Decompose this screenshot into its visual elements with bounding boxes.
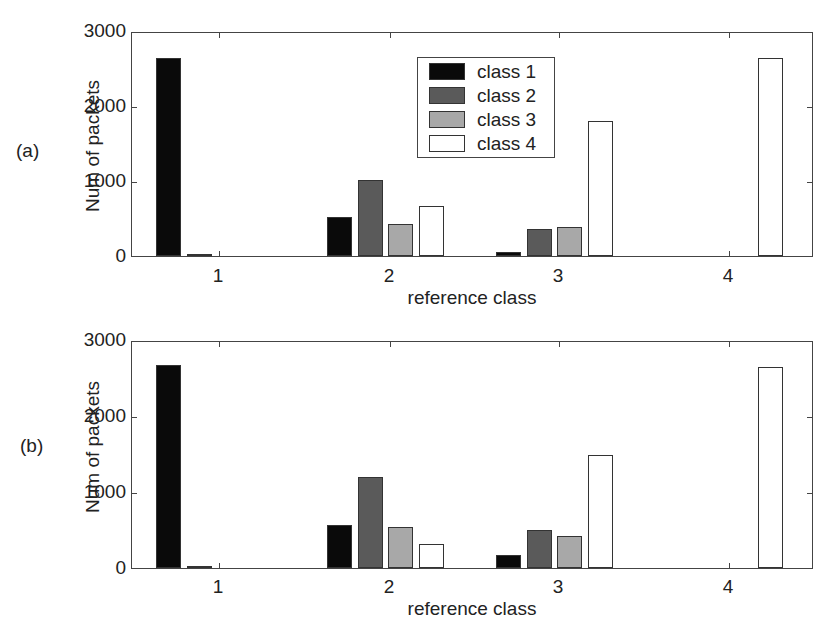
legend: class 1 class 2 class 3 class 4 — [417, 57, 555, 158]
legend-swatch — [429, 111, 465, 128]
bar-class4-ref2 — [419, 544, 444, 568]
bar-class3-ref2 — [388, 224, 413, 256]
legend-swatch — [429, 135, 465, 152]
x-tick-mark — [729, 563, 730, 568]
bar-class1-ref3 — [496, 252, 521, 256]
bar-class2-ref1 — [187, 566, 212, 568]
y-tick-mark — [807, 493, 812, 494]
plot-area — [131, 341, 813, 569]
chart-panel-a: (a) Num of packets 3000 2000 1000 0 1 2 … — [0, 0, 834, 320]
y-tick-mark — [132, 493, 137, 494]
y-tick-label: 0 — [66, 245, 126, 267]
x-tick-mark — [729, 33, 730, 38]
y-tick-label: 2000 — [66, 95, 126, 117]
x-tick-mark — [559, 342, 560, 347]
y-axis-label: Num of packets — [82, 46, 104, 246]
y-tick-mark — [132, 107, 137, 108]
y-tick-label: 3000 — [66, 329, 126, 351]
x-axis-label: reference class — [322, 598, 622, 620]
bar-class1-ref1 — [156, 58, 181, 256]
x-tick-mark — [729, 342, 730, 347]
x-axis-label: reference class — [322, 287, 622, 309]
x-tick-mark — [390, 33, 391, 38]
legend-item-class3: class 3 — [429, 110, 536, 129]
x-tick-mark — [219, 33, 220, 38]
legend-label: class 2 — [477, 85, 536, 107]
bar-class1-ref2 — [327, 525, 352, 568]
y-tick-mark — [132, 417, 137, 418]
x-tick-label: 2 — [374, 265, 404, 287]
y-tick-label: 1000 — [66, 481, 126, 503]
x-tick-label: 3 — [543, 576, 573, 598]
bar-class3-ref3 — [557, 536, 582, 568]
x-tick-label: 4 — [713, 576, 743, 598]
x-tick-label: 3 — [543, 265, 573, 287]
x-tick-mark — [390, 342, 391, 347]
x-tick-mark — [219, 251, 220, 256]
panel-tag: (b) — [20, 435, 43, 457]
bar-class4-ref3 — [588, 121, 613, 256]
panel-tag: (a) — [16, 140, 39, 162]
y-tick-mark — [807, 107, 812, 108]
bar-class2-ref1 — [187, 254, 212, 256]
legend-swatch — [429, 63, 465, 80]
x-tick-label: 1 — [203, 265, 233, 287]
y-tick-mark — [807, 182, 812, 183]
bar-class2-ref3 — [527, 229, 552, 256]
x-tick-label: 4 — [713, 265, 743, 287]
x-tick-mark — [559, 33, 560, 38]
bar-class2-ref2 — [358, 477, 383, 568]
y-tick-label: 1000 — [66, 170, 126, 192]
y-tick-mark — [807, 417, 812, 418]
y-tick-label: 3000 — [66, 20, 126, 42]
bar-class4-ref4 — [758, 58, 783, 256]
bar-class2-ref3 — [527, 530, 552, 568]
x-tick-mark — [219, 563, 220, 568]
bar-class1-ref3 — [496, 555, 521, 568]
y-axis-label: Num of packets — [82, 347, 104, 547]
legend-swatch — [429, 87, 465, 104]
bar-class1-ref1 — [156, 365, 181, 568]
legend-label: class 3 — [477, 109, 536, 131]
bar-class3-ref2 — [388, 527, 413, 568]
y-tick-mark — [132, 182, 137, 183]
bar-class1-ref2 — [327, 217, 352, 256]
y-tick-label: 2000 — [66, 405, 126, 427]
x-tick-mark — [729, 251, 730, 256]
x-tick-label: 1 — [203, 576, 233, 598]
bar-class3-ref3 — [557, 227, 582, 256]
x-tick-label: 2 — [374, 576, 404, 598]
bar-class4-ref2 — [419, 206, 444, 256]
bar-class4-ref4 — [758, 367, 783, 568]
bar-class2-ref2 — [358, 180, 383, 256]
legend-label: class 1 — [477, 61, 536, 83]
y-tick-label: 0 — [66, 557, 126, 579]
legend-item-class4: class 4 — [429, 134, 536, 153]
x-tick-mark — [219, 342, 220, 347]
legend-item-class1: class 1 — [429, 62, 536, 81]
legend-item-class2: class 2 — [429, 86, 536, 105]
legend-label: class 4 — [477, 133, 536, 155]
chart-panel-b: (b) Num of packets 3000 2000 1000 0 1 2 … — [0, 312, 834, 644]
bar-class4-ref3 — [588, 455, 613, 568]
